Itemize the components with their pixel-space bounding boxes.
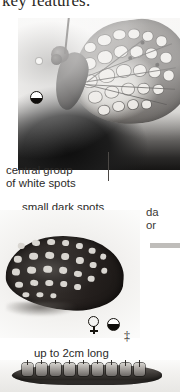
label-caterpillar-size: up to 2cm long	[34, 347, 109, 360]
margin-rule	[150, 243, 180, 248]
female-symbol-icon	[88, 316, 100, 334]
leader-line-central-spots	[108, 152, 109, 181]
wing-fringe	[6, 302, 92, 328]
label-right-column-line1: da	[146, 206, 159, 219]
half-filled-circle-icon	[30, 91, 43, 104]
photo-butterfly-underside	[0, 210, 140, 338]
butterfly-eye	[51, 54, 62, 65]
photo-caterpillar	[0, 360, 180, 392]
page-headline: key features:	[2, 0, 91, 11]
field-guide-page: key features:	[0, 0, 180, 392]
label-right-column-line2: or	[146, 219, 156, 232]
dagger-mark-icon: ‡	[124, 330, 133, 342]
half-filled-circle-icon-lower	[107, 318, 120, 331]
highlight-dot	[36, 58, 42, 64]
label-central-group-line1: central group	[6, 164, 73, 177]
label-central-group-line2: of white spots	[6, 177, 76, 190]
